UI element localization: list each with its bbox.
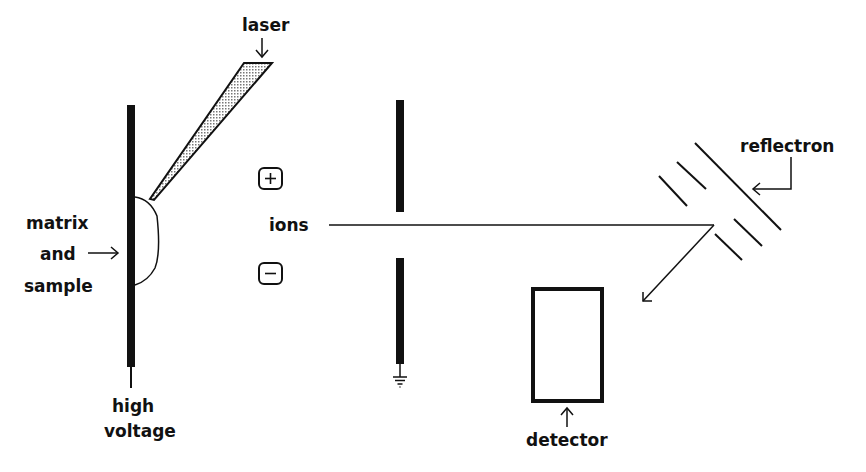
maldi-tof-diagram: laser matrix and sample high voltage ion… bbox=[0, 0, 866, 472]
detector-up-arrow-icon bbox=[561, 408, 573, 427]
matrix-right-arrow-icon bbox=[88, 247, 118, 259]
plus-charge-icon bbox=[259, 168, 282, 189]
laser-label: laser bbox=[242, 15, 290, 35]
detector-box bbox=[533, 289, 602, 401]
high-label: high bbox=[112, 396, 154, 416]
reflectron bbox=[659, 143, 781, 260]
laser-down-arrow-icon bbox=[256, 38, 268, 57]
reflectron-pointer-arrow-icon bbox=[753, 157, 791, 195]
extraction-grid-upper bbox=[396, 100, 404, 212]
ions-label: ions bbox=[269, 215, 309, 235]
laser-beam bbox=[150, 63, 272, 200]
detector-label: detector bbox=[526, 430, 608, 450]
sample-plate bbox=[127, 105, 135, 367]
reflectron-label: reflectron bbox=[740, 136, 834, 156]
matrix-sample-droplet bbox=[135, 197, 159, 285]
matrix-label: matrix bbox=[26, 213, 89, 233]
reflected-ion-path-arrow-icon bbox=[643, 225, 714, 301]
minus-charge-icon bbox=[259, 263, 282, 284]
ground-icon bbox=[393, 364, 407, 387]
extraction-grid-lower bbox=[396, 258, 404, 364]
and-label: and bbox=[40, 244, 76, 264]
voltage-label: voltage bbox=[104, 421, 176, 441]
sample-label: sample bbox=[24, 276, 93, 296]
